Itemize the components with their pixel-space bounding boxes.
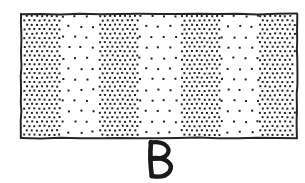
figure-background — [0, 0, 305, 183]
figure-root: B — [0, 0, 305, 183]
dot-density-diagram — [0, 0, 305, 183]
